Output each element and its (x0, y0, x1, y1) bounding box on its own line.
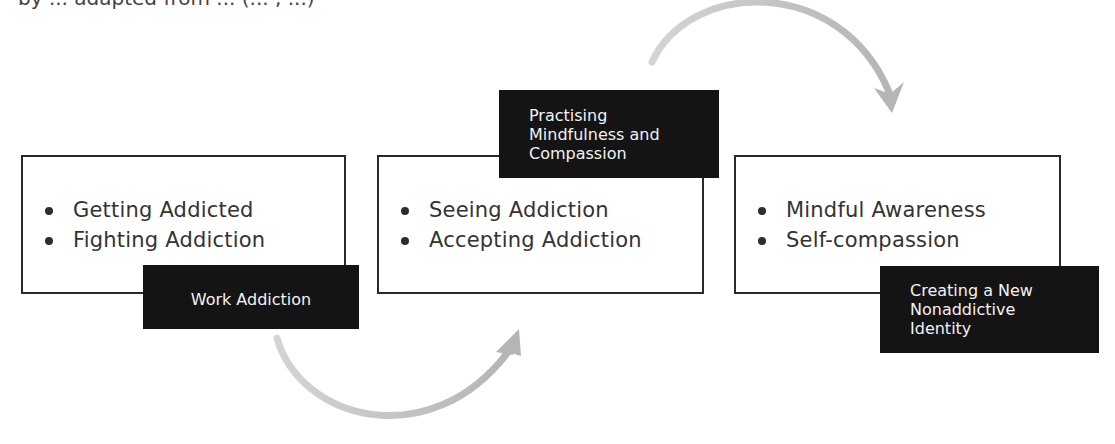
bullet-icon (401, 207, 409, 215)
stage-item-list: Getting Addicted Fighting Addiction (43, 195, 265, 255)
list-item: Fighting Addiction (43, 225, 265, 255)
list-item: Mindful Awareness (756, 195, 986, 225)
stage-label-new-identity: Creating a New Nonaddictive Identity (880, 266, 1099, 353)
stage-item-list: Mindful Awareness Self-compassion (756, 195, 986, 255)
bullet-icon (401, 237, 409, 245)
stage-item-list: Seeing Addiction Accepting Addiction (399, 195, 642, 255)
list-item: Seeing Addiction (399, 195, 642, 225)
list-item: Accepting Addiction (399, 225, 642, 255)
stage-label-work-addiction: Work Addiction (143, 265, 359, 329)
list-item: Getting Addicted (43, 195, 265, 225)
bullet-icon (45, 207, 53, 215)
stage-label-practising-mindfulness: Practising Mindfulness and Compassion (499, 90, 719, 178)
bullet-icon (758, 207, 766, 215)
bullet-icon (45, 237, 53, 245)
bullet-icon (758, 237, 766, 245)
list-item: Self-compassion (756, 225, 986, 255)
curved-arrow-icon-bottom (277, 329, 521, 416)
